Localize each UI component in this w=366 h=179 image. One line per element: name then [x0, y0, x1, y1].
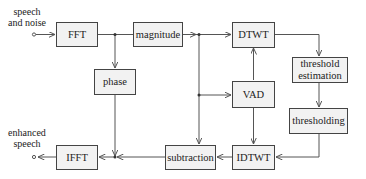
junction-dot: [114, 156, 117, 159]
input-terminal-icon: [32, 33, 35, 36]
output-label: enhanced speech: [4, 127, 50, 149]
input-label: speech and noise: [4, 6, 50, 28]
subtraction-label: subtraction: [167, 152, 214, 164]
phase-label: phase: [103, 76, 127, 88]
magnitude-block: magnitude: [133, 22, 183, 47]
ifft-block: IFFT: [56, 145, 98, 170]
thresholding-block: thresholding: [289, 108, 348, 134]
junction-dot: [198, 94, 201, 97]
input-label-line1: speech: [4, 6, 50, 17]
dtwt-block: DTWT: [232, 22, 275, 48]
fft-block: FFT: [56, 22, 98, 47]
output-label-line2: speech: [4, 138, 50, 149]
junction-dot: [114, 33, 117, 36]
input-label-line2: and noise: [4, 17, 50, 28]
subtraction-block: subtraction: [165, 145, 216, 170]
vad-label: VAD: [243, 89, 264, 101]
phase-block: phase: [94, 69, 136, 95]
thresholding-label: thresholding: [292, 115, 345, 127]
output-label-line1: enhanced: [4, 127, 50, 138]
vad-block: VAD: [232, 81, 275, 108]
ifft-label: IFFT: [66, 152, 88, 164]
idtwt-label: IDTWT: [237, 152, 271, 164]
threshold-estimation-line2: estimation: [298, 70, 342, 82]
dtwt-label: DTWT: [238, 29, 268, 41]
output-terminal-icon: [32, 155, 35, 158]
threshold-estimation-block: threshold estimation: [292, 57, 348, 83]
idtwt-block: IDTWT: [232, 145, 275, 170]
magnitude-label: magnitude: [136, 29, 180, 41]
fft-label: FFT: [68, 29, 86, 41]
threshold-estimation-line1: threshold: [300, 58, 339, 70]
junction-dot: [198, 33, 201, 36]
